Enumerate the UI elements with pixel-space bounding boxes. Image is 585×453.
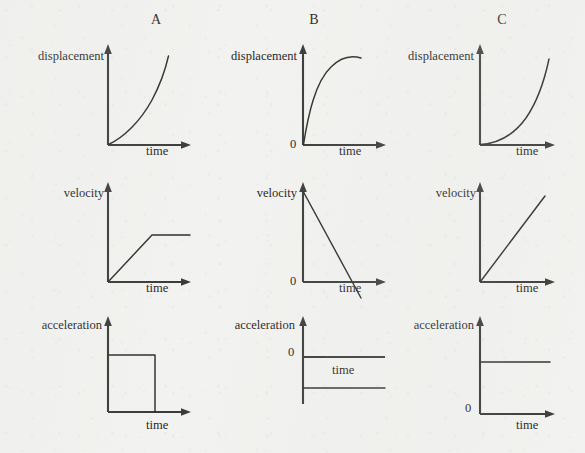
y-axis-label: displacement	[12, 49, 104, 64]
graph-velocity-b: velocity time 0	[195, 180, 390, 305]
origin-zero-label: 0	[290, 274, 296, 289]
origin-zero-label: 0	[465, 401, 471, 416]
y-axis-arrowhead	[299, 44, 307, 54]
graph-displacement-b: displacement time 0	[195, 38, 390, 168]
x-axis-label: time	[516, 144, 538, 159]
y-axis-arrowhead	[104, 182, 112, 192]
y-axis-label: velocity	[225, 186, 297, 201]
y-axis-label: displacement	[205, 49, 297, 64]
y-axis-arrowhead	[299, 182, 307, 192]
displacement-curve	[304, 57, 362, 145]
y-axis-arrowhead	[104, 44, 112, 54]
x-axis-label: time	[516, 281, 538, 296]
graph-acceleration-c: acceleration time 0	[382, 312, 585, 442]
origin-zero-label: 0	[290, 137, 296, 152]
velocity-curve	[481, 196, 546, 282]
column-header-a: A	[141, 12, 171, 28]
column-header-b: B	[299, 12, 329, 28]
acceleration-step-curve	[108, 355, 155, 412]
origin-zero-label: 0	[288, 345, 294, 360]
x-axis-label: time	[146, 281, 168, 296]
y-axis-arrowhead	[476, 316, 484, 326]
x-axis-arrowhead	[545, 410, 555, 418]
displacement-curve	[109, 56, 169, 145]
graph-acceleration-b: acceleration time 0	[195, 312, 390, 442]
y-axis-arrowhead	[476, 182, 484, 192]
y-axis-label: velocity	[404, 186, 476, 201]
y-axis-label: acceleration	[382, 318, 474, 333]
graph-velocity-a: velocity time	[0, 180, 195, 305]
column-header-c: C	[487, 12, 517, 28]
y-axis-label: acceleration	[203, 318, 295, 333]
graph-acceleration-a: acceleration time	[0, 312, 195, 442]
y-axis-label: acceleration	[10, 318, 102, 333]
graph-displacement-a: displacement time	[0, 38, 195, 168]
x-axis-label: time	[516, 418, 538, 433]
y-axis-arrowhead	[476, 44, 484, 54]
y-axis-arrowhead	[104, 316, 112, 326]
x-axis-arrowhead	[545, 141, 555, 149]
kinematics-figure: A B C displacement time displacement tim…	[0, 0, 585, 453]
x-axis-arrowhead	[545, 278, 555, 286]
graph-velocity-c: velocity time	[382, 180, 585, 305]
y-axis-label: velocity	[32, 186, 104, 201]
displacement-curve	[481, 59, 550, 145]
y-axis-arrowhead	[299, 316, 307, 326]
graph-displacement-c: displacement time	[382, 38, 585, 168]
x-axis-label: time	[332, 363, 354, 378]
velocity-curve	[109, 235, 191, 282]
y-axis-label: displacement	[382, 49, 474, 64]
x-axis-arrowhead	[181, 278, 191, 286]
x-axis-arrowhead	[181, 408, 191, 416]
x-axis-label: time	[146, 418, 168, 433]
x-axis-label: time	[146, 144, 168, 159]
x-axis-arrowhead	[181, 141, 191, 149]
x-axis-label: time	[339, 144, 361, 159]
x-axis-label: time	[339, 281, 361, 296]
